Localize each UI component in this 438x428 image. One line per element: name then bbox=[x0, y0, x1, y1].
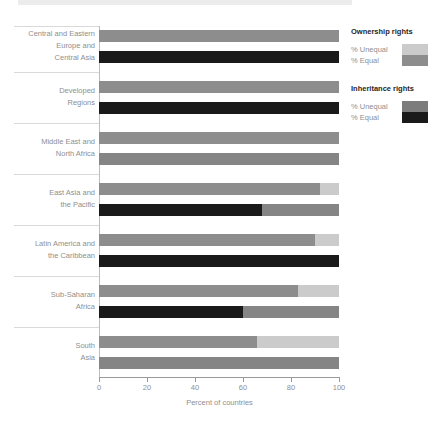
legend-inheritance-title: Inheritance rights bbox=[351, 84, 438, 93]
inheritance-unequal-swatch bbox=[402, 101, 428, 112]
category-label: Middle East andNorth Africa bbox=[0, 131, 95, 165]
ownership-equal-segment bbox=[99, 183, 320, 195]
x-tick-label: 80 bbox=[278, 383, 304, 392]
category-label: Sub-SaharanAfrica bbox=[0, 284, 95, 318]
legend-label: % Equal bbox=[351, 113, 402, 122]
legend-item-inheritance-equal: % Equal bbox=[351, 112, 438, 123]
x-tick-label: 40 bbox=[182, 383, 208, 392]
ownership-equal-segment bbox=[99, 81, 339, 93]
legend-item-inheritance-unequal: % Unequal bbox=[351, 101, 438, 112]
ownership-equal-segment bbox=[99, 285, 298, 297]
inheritance-unequal-segment bbox=[99, 357, 339, 369]
inheritance-bar bbox=[99, 102, 339, 114]
group-separator bbox=[14, 276, 99, 277]
category-label-line: Middle East and bbox=[41, 136, 95, 148]
ownership-unequal-segment bbox=[320, 183, 339, 195]
x-tick-label: 20 bbox=[134, 383, 160, 392]
category-label-line: Asia bbox=[80, 352, 95, 364]
plot-top-line bbox=[14, 26, 99, 27]
ownership-bar bbox=[99, 132, 339, 144]
category-label-line: Africa bbox=[76, 301, 95, 313]
y-axis-line bbox=[99, 26, 100, 377]
x-tick bbox=[195, 377, 196, 382]
x-tick bbox=[291, 377, 292, 382]
category-label: SouthAsia bbox=[0, 335, 95, 369]
category-label-line: Regions bbox=[67, 97, 95, 109]
inheritance-bar bbox=[99, 357, 339, 369]
category-label: Central and EasternEurope andCentral Asi… bbox=[0, 29, 95, 63]
legend-item-ownership-equal: % Equal bbox=[351, 55, 438, 66]
inheritance-bar bbox=[99, 51, 339, 63]
category-label-line: the Pacific bbox=[60, 199, 95, 211]
group-separator bbox=[14, 327, 99, 328]
inheritance-equal-segment bbox=[99, 102, 339, 114]
legend-ownership-items: % Unequal % Equal bbox=[351, 44, 438, 66]
group-separator bbox=[14, 72, 99, 73]
category-label: DevelopedRegions bbox=[0, 80, 95, 114]
category-label-line: Sub-Saharan bbox=[51, 289, 95, 301]
ownership-unequal-segment bbox=[298, 285, 339, 297]
ownership-bar bbox=[99, 336, 339, 348]
legend-ownership-title: Ownership rights bbox=[351, 27, 438, 36]
ownership-unequal-segment bbox=[315, 234, 339, 246]
ownership-equal-segment bbox=[99, 336, 257, 348]
chart: Percent of countries Central and Eastern… bbox=[0, 0, 438, 428]
category-label: Latin America andthe Caribbean bbox=[0, 233, 95, 267]
x-tick-label: 60 bbox=[230, 383, 256, 392]
ownership-unequal-segment bbox=[257, 336, 339, 348]
category-label-line: the Caribbean bbox=[48, 250, 95, 262]
category-label: East Asia andthe Pacific bbox=[0, 182, 95, 216]
inheritance-equal-segment bbox=[99, 255, 339, 267]
ownership-bar bbox=[99, 234, 339, 246]
legend-inheritance-items: % Unequal % Equal bbox=[351, 101, 438, 123]
category-label-line: North Africa bbox=[56, 148, 95, 160]
category-label-line: South bbox=[75, 340, 95, 352]
inheritance-bar bbox=[99, 306, 339, 318]
category-label-line: Central Asia bbox=[55, 52, 95, 64]
category-label-line: Europe and bbox=[56, 40, 95, 52]
inheritance-bar bbox=[99, 255, 339, 267]
x-axis-line bbox=[99, 377, 340, 378]
ownership-bar bbox=[99, 30, 339, 42]
category-label-line: East Asia and bbox=[49, 187, 95, 199]
legend-ownership: Ownership rights % Unequal % Equal bbox=[351, 27, 438, 66]
ownership-equal-swatch bbox=[402, 55, 428, 66]
group-separator bbox=[14, 123, 99, 124]
ownership-unequal-swatch bbox=[402, 44, 428, 55]
inheritance-unequal-segment bbox=[99, 153, 339, 165]
x-tick bbox=[339, 377, 340, 382]
ownership-bar bbox=[99, 81, 339, 93]
inheritance-bar bbox=[99, 204, 339, 216]
x-tick bbox=[99, 377, 100, 382]
inheritance-bar bbox=[99, 153, 339, 165]
legend-label: % Equal bbox=[351, 56, 402, 65]
inheritance-equal-segment bbox=[99, 306, 243, 318]
category-label-line: Central and Eastern bbox=[28, 28, 95, 40]
x-tick bbox=[147, 377, 148, 382]
ownership-equal-segment bbox=[99, 234, 315, 246]
inheritance-unequal-segment bbox=[262, 204, 339, 216]
x-axis-title: Percent of countries bbox=[99, 398, 340, 407]
inheritance-equal-swatch bbox=[402, 112, 428, 123]
category-label-line: Latin America and bbox=[35, 238, 95, 250]
inheritance-equal-segment bbox=[99, 204, 262, 216]
group-separator bbox=[14, 225, 99, 226]
legend-label: % Unequal bbox=[351, 45, 402, 54]
x-tick bbox=[243, 377, 244, 382]
top-strip-decoration bbox=[18, 0, 352, 5]
inheritance-equal-segment bbox=[99, 51, 339, 63]
x-tick-label: 100 bbox=[326, 383, 352, 392]
ownership-bar bbox=[99, 285, 339, 297]
legend-item-ownership-unequal: % Unequal bbox=[351, 44, 438, 55]
legend-inheritance: Inheritance rights % Unequal % Equal bbox=[351, 84, 438, 123]
ownership-equal-segment bbox=[99, 132, 339, 144]
legend-label: % Unequal bbox=[351, 102, 402, 111]
ownership-equal-segment bbox=[99, 30, 339, 42]
category-label-line: Developed bbox=[59, 85, 95, 97]
ownership-bar bbox=[99, 183, 339, 195]
x-tick-label: 0 bbox=[86, 383, 112, 392]
group-separator bbox=[14, 174, 99, 175]
inheritance-unequal-segment bbox=[243, 306, 339, 318]
